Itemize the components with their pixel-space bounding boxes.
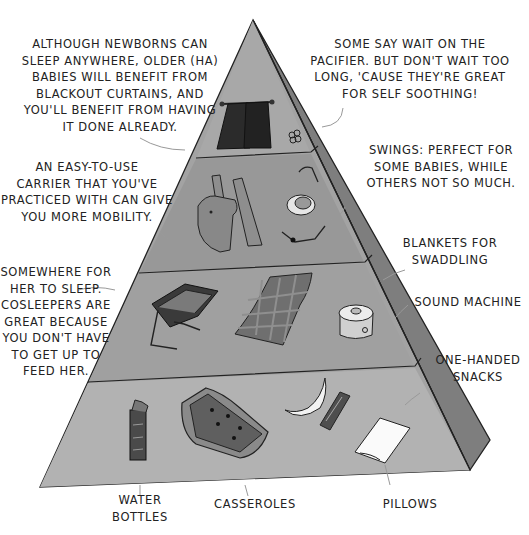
annotation-water-bottles: WATER BOTTLES xyxy=(100,492,180,525)
annotation-sound-machine: SOUND MACHINE xyxy=(408,294,528,311)
annotation-pacifier: SOME SAY WAIT ON THE PACIFIER. BUT DON'T… xyxy=(290,36,529,102)
annotation-blackout-curtains: ALTHOUGH NEWBORNS CAN SLEEP ANYWHERE, OL… xyxy=(0,36,240,135)
water-bottle-icon xyxy=(130,400,148,460)
annotation-casseroles: CASSEROLES xyxy=(200,496,310,513)
illustration-canvas: ALTHOUGH NEWBORNS CAN SLEEP ANYWHERE, OL… xyxy=(0,0,529,535)
annotation-carrier: AN EASY-TO-USE CARRIER THAT YOU'VE PRACT… xyxy=(0,159,182,225)
sound-machine-icon xyxy=(339,305,373,339)
annotation-cosleeper: SOMEWHERE FOR HER TO SLEEP. COSLEEPERS A… xyxy=(0,264,126,380)
annotation-blankets: BLANKETS FOR SWADDLING xyxy=(390,235,510,268)
annotation-pillows: PILLOWS xyxy=(370,496,450,513)
annotation-swings: SWINGS: PERFECT FOR SOME BABIES, WHILE O… xyxy=(346,142,529,192)
annotation-snacks: ONE-HANDED SNACKS xyxy=(428,352,528,385)
